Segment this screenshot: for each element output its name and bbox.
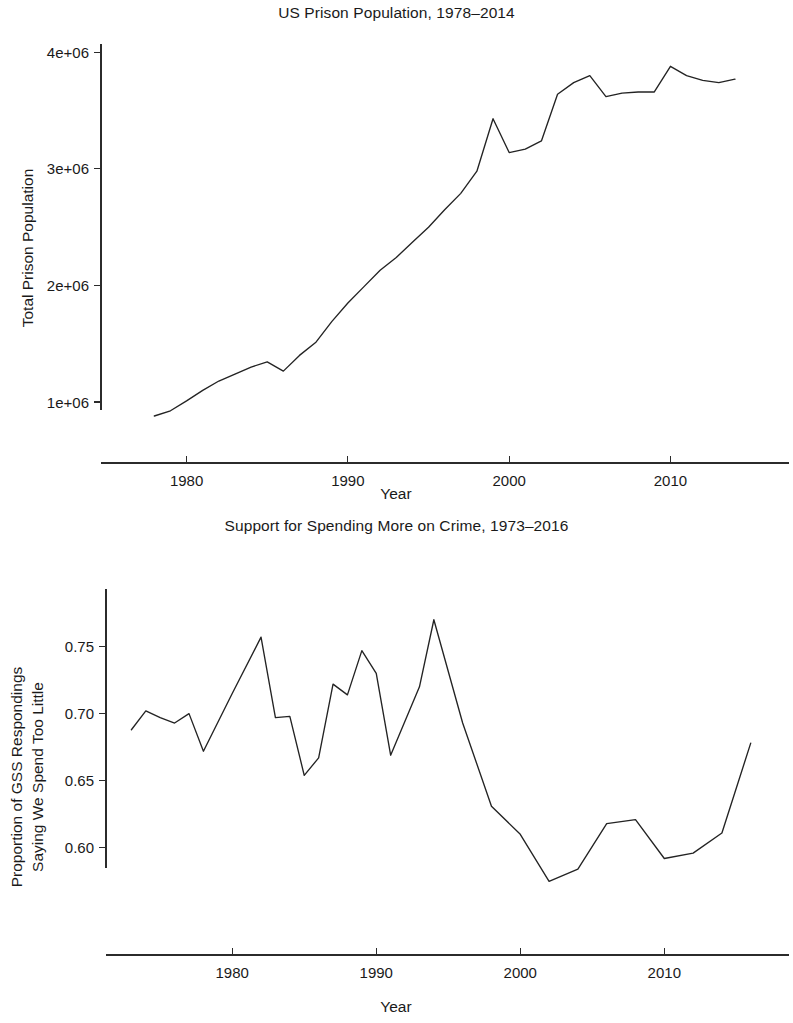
y-axis-tick-labels-bottom: 0.600.650.700.75 — [65, 638, 94, 856]
x-axis-title-top: Year — [380, 485, 411, 502]
svg-text:0.70: 0.70 — [65, 705, 94, 722]
data-series-prison-population — [154, 66, 735, 416]
x-axis-ticks-bottom — [232, 948, 664, 955]
svg-text:1990: 1990 — [360, 964, 393, 981]
y-axis-tick-labels-top: 1e+062e+063e+064e+06 — [47, 44, 89, 411]
x-axis-ticks-top — [187, 456, 671, 463]
chart-panel-crime-spending-support: Support for Spending More on Crime, 1973… — [0, 512, 793, 1023]
svg-text:4e+06: 4e+06 — [47, 44, 89, 61]
svg-text:0.65: 0.65 — [65, 772, 94, 789]
svg-text:2000: 2000 — [492, 472, 525, 489]
svg-text:1980: 1980 — [170, 472, 203, 489]
plot-area-crime-spending-support: 0.600.650.700.75 1980199020002010 Year P… — [0, 512, 793, 1023]
x-axis-title-bottom: Year — [380, 998, 411, 1015]
x-axis-tick-labels-bottom: 1980199020002010 — [216, 964, 681, 981]
y-axis-ticks-top — [94, 52, 101, 402]
y-axis-title-bottom-line2: Saying We Spend Too Little — [29, 682, 46, 872]
chart-panel-prison-population: US Prison Population, 1978–2014 1e+062e+… — [0, 0, 793, 512]
axis-lines-bottom — [106, 589, 789, 955]
y-axis-title-top: Total Prison Population — [19, 169, 36, 328]
svg-text:0.60: 0.60 — [65, 839, 94, 856]
y-axis-ticks-bottom — [99, 647, 106, 848]
svg-text:0.75: 0.75 — [65, 638, 94, 655]
plot-area-prison-population: 1e+062e+063e+064e+06 1980199020002010 Ye… — [0, 0, 793, 512]
svg-text:2010: 2010 — [654, 472, 687, 489]
svg-text:3e+06: 3e+06 — [47, 160, 89, 177]
svg-text:2000: 2000 — [504, 964, 537, 981]
x-axis-tick-labels-top: 1980199020002010 — [170, 472, 687, 489]
svg-text:1990: 1990 — [331, 472, 364, 489]
svg-text:2e+06: 2e+06 — [47, 277, 89, 294]
svg-text:1e+06: 1e+06 — [47, 394, 89, 411]
svg-text:2010: 2010 — [648, 964, 681, 981]
figure-page: US Prison Population, 1978–2014 1e+062e+… — [0, 0, 793, 1023]
axis-lines-top — [101, 44, 789, 463]
svg-text:1980: 1980 — [216, 964, 249, 981]
data-series-crime-spending-support — [131, 620, 750, 882]
y-axis-title-bottom-line1: Proportion of GSS Respondings — [8, 666, 25, 887]
